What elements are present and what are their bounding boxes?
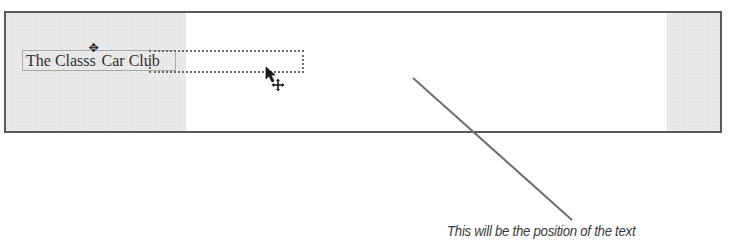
annotation-caption: This will be the position of the text [447,222,635,239]
title-text-start: The Class [26,52,90,69]
move-cursor-icon: s✥ [90,51,98,70]
drag-cursor-icon [265,66,285,92]
page-layout-frame: The Classs✥ Car Club [4,11,722,133]
